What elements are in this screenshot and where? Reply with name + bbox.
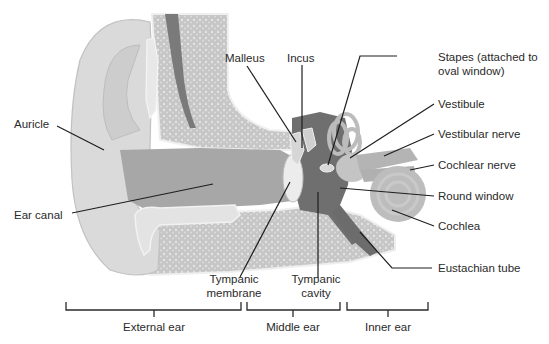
ear-canal-shape xyxy=(120,148,300,212)
label-tympanic-cavity-line1: Tympanic xyxy=(286,272,346,286)
label-cochlea: Cochlea xyxy=(438,219,480,233)
label-middle-ear: Middle ear xyxy=(243,320,343,334)
label-round-window: Round window xyxy=(438,189,513,203)
label-cochlear-nerve: Cochlear nerve xyxy=(438,158,516,172)
leader-vestibule xyxy=(350,104,434,158)
label-ear-canal: Ear canal xyxy=(14,208,63,222)
label-inner-ear: Inner ear xyxy=(343,320,433,334)
stapes-shape xyxy=(320,164,334,172)
label-eustachian-tube: Eustachian tube xyxy=(438,261,520,275)
region-brackets xyxy=(66,302,428,317)
label-stapes-line2: oval window) xyxy=(438,64,504,78)
label-incus: Incus xyxy=(287,51,315,65)
label-tympanic-membrane-line2: membrane xyxy=(200,286,268,300)
ear-anatomy-diagram: Malleus Incus Stapes (attached to oval w… xyxy=(0,0,549,344)
label-stapes-line1: Stapes (attached to xyxy=(438,50,538,64)
cochlea-shape xyxy=(370,166,426,222)
auricle-cartilage xyxy=(146,38,158,118)
bracket-external-ear xyxy=(66,302,241,310)
label-vestibular-nerve: Vestibular nerve xyxy=(438,127,520,141)
label-tympanic-membrane-line1: Tympanic xyxy=(200,272,268,286)
label-malleus: Malleus xyxy=(225,51,265,65)
label-tympanic-cavity-line2: cavity xyxy=(286,286,346,300)
label-external-ear: External ear xyxy=(94,320,214,334)
label-auricle: Auricle xyxy=(14,117,49,131)
bracket-inner-ear xyxy=(347,302,428,310)
bracket-middle-ear xyxy=(247,302,340,310)
label-vestibule: Vestibule xyxy=(438,97,485,111)
